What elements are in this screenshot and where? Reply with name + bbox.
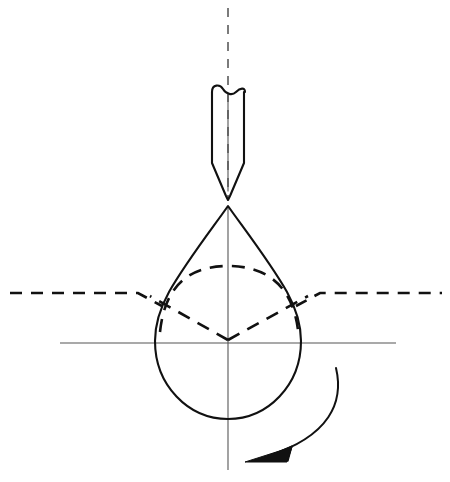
diagram-canvas (0, 0, 450, 482)
technical-drawing-svg (0, 0, 450, 482)
background-rect (0, 0, 450, 482)
